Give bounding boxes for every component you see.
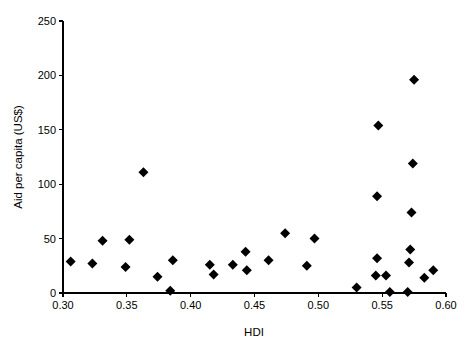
data-point [87,259,97,269]
y-tick-label: 200 [38,69,56,81]
x-tick-label: 0.55 [371,299,392,311]
data-point [168,255,178,265]
y-tick-label: 150 [38,124,56,136]
data-point [372,253,382,263]
data-point [428,265,438,275]
x-axis-tick-labels: 0.300.350.400.450.500.550.60 [52,299,456,311]
data-point [209,270,219,280]
scatter-chart-figure: 050100150200250 0.300.350.400.450.500.55… [0,0,473,343]
data-point [152,272,162,282]
data-point [403,287,413,297]
data-point [385,287,395,297]
x-tick-label: 0.35 [116,299,137,311]
data-point [124,235,134,245]
x-axis-title: HDI [244,326,264,338]
data-point [371,271,381,281]
data-point [205,260,215,270]
data-point [66,256,76,266]
data-point [138,167,148,177]
data-point [381,271,391,281]
data-point [419,273,429,283]
y-tick-label: 0 [50,287,56,299]
x-tick-label: 0.50 [308,299,329,311]
data-point [409,75,419,85]
y-axis-ticks [59,21,63,293]
x-tick-label: 0.40 [180,299,201,311]
data-point [228,260,238,270]
scatter-plot-canvas: 050100150200250 0.300.350.400.450.500.55… [0,0,473,343]
data-point [241,247,251,257]
data-point [408,159,418,169]
data-point [372,191,382,201]
data-point [352,283,362,293]
y-axis-tick-labels: 050100150200250 [38,15,56,299]
data-point [280,228,290,238]
data-point [242,265,252,275]
data-point [404,258,414,268]
y-tick-label: 50 [44,233,56,245]
data-point [121,262,131,272]
data-point [373,120,383,130]
data-point [264,255,274,265]
data-point [407,207,417,217]
data-point [405,244,415,254]
y-axis-title: Aid per capita (US$) [12,105,24,209]
y-tick-label: 250 [38,15,56,27]
x-tick-label: 0.60 [435,299,456,311]
x-tick-label: 0.45 [244,299,265,311]
x-tick-label: 0.30 [52,299,73,311]
y-tick-label: 100 [38,178,56,190]
data-point [302,261,312,271]
data-point [98,236,108,246]
data-point-group [66,75,439,297]
data-point [310,234,320,244]
data-point [165,286,175,296]
